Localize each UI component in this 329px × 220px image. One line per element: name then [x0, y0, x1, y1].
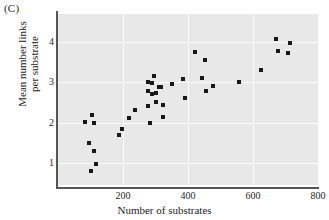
y-tick-label-2: 2 [42, 117, 54, 128]
gridline-x-600 [253, 14, 254, 185]
gridline-x-200 [123, 14, 124, 185]
data-point [92, 121, 96, 125]
y-axis-title-line-1: Mean number links [16, 21, 28, 107]
gridline-y-2 [58, 123, 318, 124]
y-axis-title: Mean number links per substrate [16, 0, 40, 144]
x-axis-line [56, 187, 319, 189]
data-point [89, 169, 93, 173]
data-point [203, 58, 207, 62]
data-point [148, 121, 152, 125]
x-axis-title: Number of substrates [0, 204, 329, 216]
data-point [133, 108, 137, 112]
data-point [94, 162, 98, 166]
gridline-y-4 [58, 42, 318, 43]
data-point [146, 104, 150, 108]
data-point [117, 133, 121, 137]
data-point [288, 41, 292, 45]
data-point [276, 49, 280, 53]
y-tick-label-4: 4 [42, 36, 54, 47]
gridline-x-400 [188, 14, 189, 185]
y-axis-line [56, 11, 58, 188]
data-point [127, 116, 131, 120]
y-tick-label-3: 3 [42, 76, 54, 87]
data-point [237, 80, 241, 84]
data-point [159, 85, 163, 89]
y-axis-title-line-2: per substrate [28, 0, 40, 144]
gridline-y-3 [58, 82, 318, 83]
scatter-plot-area [58, 14, 318, 185]
y-tick-label-1: 1 [42, 157, 54, 168]
data-point [150, 81, 154, 85]
data-point [154, 100, 158, 104]
data-point [274, 37, 278, 41]
data-point [259, 68, 263, 72]
x-tick-label-800: 800 [301, 190, 329, 201]
data-point [200, 76, 204, 80]
data-point [181, 77, 185, 81]
y-axis-tick-labels: 1234 [38, 0, 54, 220]
data-point [161, 103, 165, 107]
x-tick-label-400: 400 [171, 190, 205, 201]
data-point [193, 50, 197, 54]
data-point [83, 120, 87, 124]
data-point [87, 141, 91, 145]
data-point [161, 115, 165, 119]
x-tick-label-600: 600 [236, 190, 270, 201]
x-tick-label-200: 200 [106, 190, 140, 201]
data-point [211, 84, 215, 88]
data-point [120, 127, 124, 131]
data-point [170, 82, 174, 86]
data-point [183, 96, 187, 100]
data-point [204, 89, 208, 93]
x-axis-tick-labels: 200400600800 [0, 190, 329, 204]
data-point [152, 74, 156, 78]
data-point [92, 149, 96, 153]
data-point [154, 91, 158, 95]
figure-panel-c: (C) 1234 200400600800 Number of substrat… [0, 0, 329, 220]
data-point [90, 113, 94, 117]
data-point [286, 51, 290, 55]
